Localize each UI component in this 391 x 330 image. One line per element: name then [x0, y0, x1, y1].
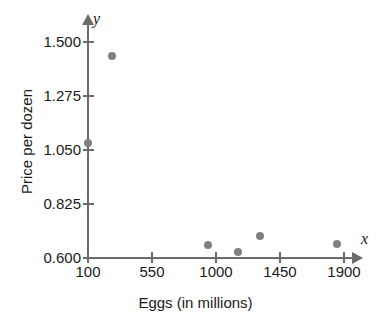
- x-tick-label: 100: [58, 263, 118, 280]
- scatter-plot-figure: y x 0.6000.8251.0501.2751.500 1005501000…: [0, 0, 391, 330]
- x-tick-label: 1900: [314, 263, 374, 280]
- x-tick-label: 1000: [186, 263, 246, 280]
- data-point: [234, 248, 242, 256]
- y-tick-mark: [83, 95, 94, 97]
- y-axis-title: Price per dozen: [18, 62, 35, 222]
- x-tick-label: 1450: [250, 263, 310, 280]
- x-axis-title: Eggs (in millions): [0, 294, 391, 311]
- y-tick-mark: [83, 203, 94, 205]
- x-tick-mark: [87, 252, 89, 263]
- data-point: [108, 52, 116, 60]
- x-tick-mark: [343, 252, 345, 263]
- data-point: [256, 232, 264, 240]
- data-point: [204, 241, 212, 249]
- y-axis-letter: y: [93, 10, 100, 28]
- x-tick-mark: [151, 252, 153, 263]
- y-tick-mark: [83, 149, 94, 151]
- x-axis-line: [88, 257, 354, 259]
- x-axis-letter: x: [361, 230, 368, 248]
- y-tick-label: 1.500: [21, 33, 81, 50]
- x-tick-label: 550: [122, 263, 182, 280]
- data-point: [84, 139, 92, 147]
- data-point: [333, 240, 341, 248]
- y-tick-mark: [83, 41, 94, 43]
- x-tick-mark: [215, 252, 217, 263]
- x-tick-mark: [279, 252, 281, 263]
